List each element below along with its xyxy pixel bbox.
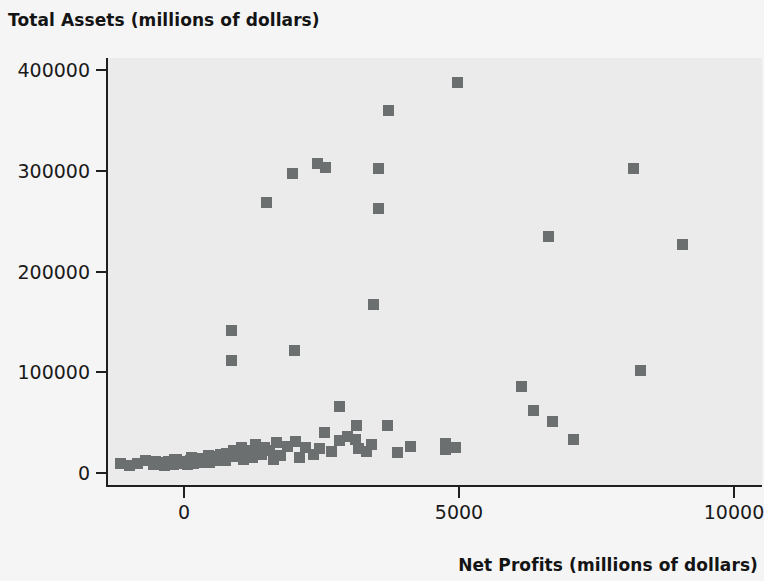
x-axis-title: Net Profits (millions of dollars) [458, 555, 758, 575]
data-point [289, 345, 300, 356]
data-point [308, 449, 319, 460]
data-point [361, 446, 372, 457]
data-point [373, 163, 384, 174]
data-point [320, 162, 331, 173]
y-axis-tick-label: 200000 [0, 261, 90, 283]
y-axis-tick-label: 0 [0, 462, 90, 484]
y-axis-tick-mark [96, 170, 107, 172]
data-point [226, 325, 237, 336]
x-axis-tick-mark [183, 487, 185, 498]
data-point [268, 454, 279, 465]
y-axis-line [106, 58, 108, 487]
x-axis-tick-mark [458, 487, 460, 498]
data-point [440, 444, 451, 455]
data-point [450, 442, 461, 453]
x-axis-tick-mark [733, 487, 735, 498]
plot-area [107, 58, 762, 485]
y-axis-tick-mark [96, 271, 107, 273]
data-point [150, 456, 161, 467]
data-point [368, 299, 379, 310]
data-point [568, 434, 579, 445]
data-point [294, 452, 305, 463]
data-point [516, 381, 527, 392]
y-axis-tick-label: 100000 [0, 361, 90, 383]
x-axis-line [107, 485, 762, 487]
y-axis-tick-label: 400000 [0, 59, 90, 81]
data-point [226, 355, 237, 366]
data-point [383, 105, 394, 116]
data-point [351, 420, 362, 431]
data-point [334, 401, 345, 412]
data-point [452, 77, 463, 88]
data-point [326, 446, 337, 457]
data-point [547, 416, 558, 427]
data-point [382, 420, 393, 431]
data-point [405, 441, 416, 452]
y-axis-tick-mark [96, 472, 107, 474]
data-point [543, 231, 554, 242]
x-axis-tick-label: 0 [178, 501, 190, 523]
data-point [635, 365, 646, 376]
y-axis-title: Total Assets (millions of dollars) [8, 10, 320, 30]
data-point [528, 405, 539, 416]
y-axis-tick-mark [96, 371, 107, 373]
data-point [319, 427, 330, 438]
data-point [115, 458, 126, 469]
data-point [373, 203, 384, 214]
data-point [287, 168, 298, 179]
y-axis-tick-mark [96, 69, 107, 71]
data-point [677, 239, 688, 250]
x-axis-tick-label: 10000 [704, 501, 764, 523]
data-point [628, 163, 639, 174]
data-point [334, 435, 345, 446]
data-point [392, 447, 403, 458]
data-point [261, 197, 272, 208]
data-point [160, 458, 171, 469]
y-axis-tick-label: 300000 [0, 160, 90, 182]
x-axis-tick-label: 5000 [435, 501, 483, 523]
